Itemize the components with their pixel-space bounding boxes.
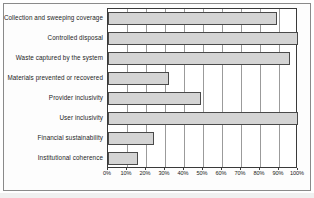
category-label: Collection and sweeping coverage bbox=[4, 8, 103, 28]
category-label: Financial sustainability bbox=[38, 128, 103, 148]
tick-label: 90% bbox=[273, 170, 284, 176]
category-label: Provider inclusivity bbox=[49, 88, 103, 108]
tick-label: 80% bbox=[254, 170, 265, 176]
scan-edge bbox=[0, 193, 314, 198]
value-axis: 0%10%20%30%40%50%60%70%80%90%100% bbox=[107, 0, 297, 198]
tick-label: 50% bbox=[197, 170, 208, 176]
category-label: User inclusivity bbox=[59, 108, 103, 128]
category-label: Institutional coherence bbox=[38, 148, 103, 168]
category-label: Waste captured by the system bbox=[16, 48, 103, 68]
tick-label: 70% bbox=[235, 170, 246, 176]
category-label: Materials prevented or recovered bbox=[7, 68, 103, 88]
tick-label: 100% bbox=[290, 170, 304, 176]
chart-figure: Collection and sweeping coverage Control… bbox=[0, 0, 314, 198]
tick-label: 30% bbox=[159, 170, 170, 176]
tick-label: 60% bbox=[216, 170, 227, 176]
category-label: Controlled disposal bbox=[48, 28, 103, 48]
tick-label: 0% bbox=[103, 170, 111, 176]
tick-label: 20% bbox=[140, 170, 151, 176]
tick-label: 40% bbox=[178, 170, 189, 176]
tick-label: 10% bbox=[121, 170, 132, 176]
